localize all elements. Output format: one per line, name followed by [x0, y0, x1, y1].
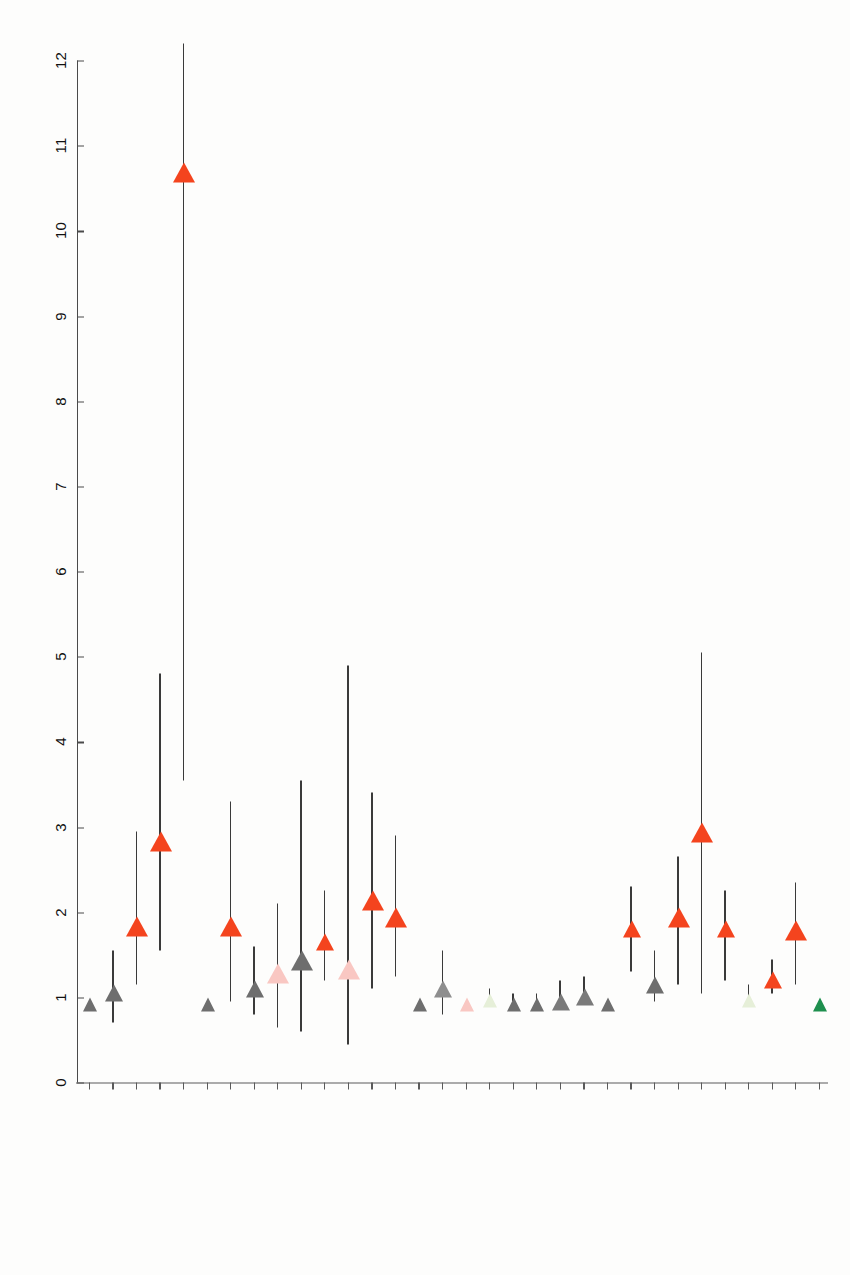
table-row [607, 0, 608, 1275]
table-row [772, 0, 773, 1275]
data-point-marker [83, 997, 97, 1011]
data-point-marker [717, 920, 735, 937]
table-row [277, 0, 278, 1275]
data-point-marker [507, 997, 521, 1011]
data-point-marker [460, 997, 474, 1011]
x-tick [77, 741, 84, 742]
confidence-interval-bar [183, 43, 185, 780]
data-point-marker [552, 993, 570, 1010]
table-row [725, 0, 726, 1275]
x-tick-label: 10 [52, 222, 69, 239]
x-tick [77, 827, 84, 828]
x-tick-label: 3 [52, 822, 69, 831]
x-tick-label: 8 [52, 396, 69, 405]
table-row [207, 0, 208, 1275]
table-row [89, 0, 90, 1275]
data-point-marker [246, 980, 264, 997]
confidence-interval-bar [230, 801, 232, 1001]
x-tick-label: 1 [52, 993, 69, 1002]
data-point-marker [413, 997, 427, 1011]
data-point-marker [530, 997, 544, 1011]
data-point-marker [434, 980, 452, 997]
x-tick [77, 60, 84, 61]
data-point-marker [742, 993, 756, 1007]
x-tick [77, 316, 84, 317]
data-point-marker [201, 997, 215, 1011]
data-point-marker [483, 993, 497, 1007]
table-row [136, 0, 137, 1275]
data-point-marker [291, 950, 313, 970]
x-tick [77, 1082, 84, 1083]
table-row [113, 0, 114, 1275]
table-row [183, 0, 184, 1275]
table-row [324, 0, 325, 1275]
table-row [584, 0, 585, 1275]
data-point-marker [668, 907, 690, 927]
x-tick [77, 656, 84, 657]
x-tick-label: 5 [52, 652, 69, 661]
data-point-marker [126, 916, 148, 936]
table-row [560, 0, 561, 1275]
data-point-marker [267, 963, 289, 983]
x-tick-label: 6 [52, 567, 69, 576]
data-point-marker [623, 920, 641, 937]
data-point-marker [576, 988, 594, 1005]
data-point-marker [173, 162, 195, 182]
x-tick-label: 2 [52, 907, 69, 916]
table-row [795, 0, 796, 1275]
x-tick-label: 7 [52, 482, 69, 491]
x-tick-label: 11 [52, 137, 69, 153]
table-row [631, 0, 632, 1275]
x-tick-label: 0 [52, 1078, 69, 1087]
table-row [348, 0, 349, 1275]
confidence-interval-bar [395, 835, 397, 976]
x-tick [77, 912, 84, 913]
table-row [489, 0, 490, 1275]
data-point-marker [105, 984, 123, 1001]
data-point-marker [338, 959, 360, 979]
data-point-marker [691, 822, 713, 842]
x-tick-label: 4 [52, 737, 69, 746]
table-row [466, 0, 467, 1275]
table-row [513, 0, 514, 1275]
forest-plot-canvas: 0123456789101112 bis 25 Jahre (Ref.)mehr… [0, 0, 850, 1275]
confidence-interval-bar [300, 780, 302, 1031]
data-point-marker [385, 907, 407, 927]
table-row [301, 0, 302, 1275]
data-point-marker [362, 890, 384, 910]
data-point-marker [220, 916, 242, 936]
table-row [419, 0, 420, 1275]
x-tick [77, 486, 84, 487]
table-row [254, 0, 255, 1275]
confidence-interval-bar [136, 831, 138, 984]
table-row [654, 0, 655, 1275]
table-row [230, 0, 231, 1275]
x-tick [77, 401, 84, 402]
confidence-interval-bar [159, 673, 161, 950]
table-row [819, 0, 820, 1275]
data-point-marker [785, 920, 807, 940]
data-point-marker [813, 997, 827, 1011]
data-point-marker [316, 933, 334, 950]
x-tick [77, 571, 84, 572]
chart-inner: 0123456789101112 bis 25 Jahre (Ref.)mehr… [0, 0, 850, 1275]
confidence-interval-bar [347, 665, 349, 1044]
data-point-marker [764, 971, 782, 988]
data-point-marker [150, 831, 172, 851]
table-row [678, 0, 679, 1275]
x-tick [77, 230, 84, 231]
table-row [536, 0, 537, 1275]
table-row [160, 0, 161, 1275]
x-tick [77, 145, 84, 146]
x-tick-label: 12 [52, 51, 69, 68]
table-row [442, 0, 443, 1275]
table-row [748, 0, 749, 1275]
rotated-chart-stage: 0123456789101112 bis 25 Jahre (Ref.)mehr… [0, 0, 850, 1275]
table-row [395, 0, 396, 1275]
data-point-marker [601, 997, 615, 1011]
table-row [372, 0, 373, 1275]
x-tick-label: 9 [52, 311, 69, 320]
y-axis-line [76, 1082, 828, 1083]
data-point-marker [646, 976, 664, 993]
table-row [701, 0, 702, 1275]
